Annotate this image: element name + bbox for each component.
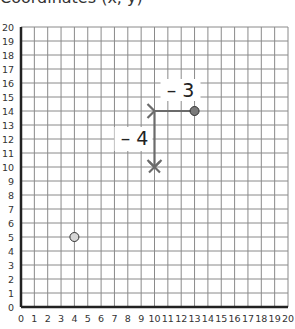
y-tick-label: 16 bbox=[2, 78, 14, 89]
x-tick-label: 13 bbox=[189, 313, 201, 324]
start-point-icon bbox=[190, 107, 199, 116]
y-tick-label: 15 bbox=[2, 92, 14, 103]
x-tick-label: 11 bbox=[162, 313, 174, 324]
x-tick-label: 4 bbox=[71, 313, 77, 324]
coordinate-grid: 01234567891011121314151617181920 0123456… bbox=[0, 0, 295, 329]
x-tick-label: 8 bbox=[125, 313, 131, 324]
x-tick-label: 3 bbox=[58, 313, 64, 324]
y-tick-label: 17 bbox=[2, 64, 14, 75]
y-tick-label: 6 bbox=[8, 218, 14, 229]
x-tick-label: 19 bbox=[269, 313, 281, 324]
move-label: – 3 bbox=[167, 79, 195, 101]
x-tick-label: 6 bbox=[98, 313, 104, 324]
x-tick-label: 14 bbox=[202, 313, 214, 324]
y-tick-label: 10 bbox=[2, 162, 14, 173]
y-tick-label: 0 bbox=[8, 302, 14, 313]
x-tick-label: 1 bbox=[31, 313, 37, 324]
y-tick-label: 9 bbox=[8, 176, 14, 187]
y-tick-label: 4 bbox=[8, 246, 14, 257]
y-axis-ticks: 01234567891011121314151617181920 bbox=[2, 22, 14, 313]
x-tick-label: 18 bbox=[255, 313, 267, 324]
y-tick-label: 5 bbox=[8, 232, 14, 243]
x-tick-label: 2 bbox=[45, 313, 51, 324]
y-tick-label: 2 bbox=[8, 274, 14, 285]
y-tick-label: 7 bbox=[8, 204, 14, 215]
y-tick-label: 8 bbox=[8, 190, 14, 201]
x-tick-label: 5 bbox=[85, 313, 91, 324]
y-tick-label: 14 bbox=[2, 106, 14, 117]
x-tick-label: 20 bbox=[282, 313, 294, 324]
x-tick-label: 16 bbox=[229, 313, 241, 324]
arrow-down: – 4 bbox=[115, 111, 162, 167]
y-tick-label: 1 bbox=[8, 288, 14, 299]
y-tick-label: 18 bbox=[2, 50, 14, 61]
other-point-icon bbox=[70, 233, 79, 242]
y-tick-label: 3 bbox=[8, 260, 14, 271]
y-tick-label: 19 bbox=[2, 36, 14, 47]
x-tick-label: 12 bbox=[175, 313, 187, 324]
x-tick-label: 17 bbox=[242, 313, 254, 324]
y-tick-label: 11 bbox=[2, 148, 14, 159]
y-tick-label: 20 bbox=[2, 22, 14, 33]
y-tick-label: 13 bbox=[2, 120, 14, 131]
x-axis-ticks: 01234567891011121314151617181920 bbox=[18, 313, 294, 324]
y-tick-label: 12 bbox=[2, 134, 14, 145]
x-tick-label: 7 bbox=[111, 313, 117, 324]
move-label: – 4 bbox=[121, 127, 149, 149]
x-tick-label: 10 bbox=[148, 313, 160, 324]
x-tick-label: 0 bbox=[18, 313, 24, 324]
x-tick-label: 15 bbox=[215, 313, 227, 324]
x-tick-label: 9 bbox=[138, 313, 144, 324]
